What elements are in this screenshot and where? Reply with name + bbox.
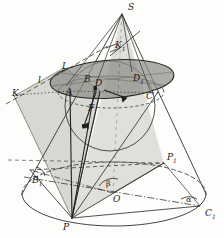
- label-D: D: [95, 79, 102, 88]
- label-C: C: [146, 92, 153, 101]
- geometry-figure-canvas: S K1 L l K A B D D1 C F P1 B1 β O α C1 P: [0, 0, 224, 238]
- label-D1: D1: [133, 74, 144, 85]
- label-line-l: l: [38, 76, 41, 85]
- label-S: S: [128, 3, 134, 12]
- label-O: O: [113, 195, 120, 204]
- label-F: F: [88, 104, 94, 113]
- label-B1: B1: [32, 176, 42, 187]
- label-B: B: [84, 75, 91, 84]
- label-C1: C1: [205, 209, 216, 220]
- label-angle-beta: β: [106, 180, 111, 188]
- label-P1: P1: [167, 153, 177, 164]
- label-angle-alpha: α: [186, 196, 191, 204]
- label-A: A: [66, 88, 73, 97]
- label-P: P: [63, 223, 69, 232]
- label-K1: K1: [115, 41, 126, 52]
- label-K: K: [12, 89, 19, 98]
- label-L: L: [62, 62, 68, 71]
